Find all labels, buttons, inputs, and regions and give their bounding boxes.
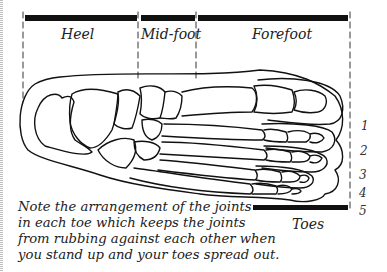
caption-line-2: in each toe which keeps the joints xyxy=(18,215,279,231)
caption-line-4: you stand up and your toes spread out. xyxy=(18,247,279,263)
metatarsal-4 xyxy=(158,160,257,180)
metatarsal-3 xyxy=(160,142,267,160)
toe-1-proximal-phalanx xyxy=(254,85,294,113)
caption-line-1: Note the arrangement of the joints xyxy=(18,199,279,215)
cuneiform-2 xyxy=(142,119,162,140)
metatarsal-1 xyxy=(182,87,257,116)
toe-1-distal-phalanx xyxy=(294,90,326,113)
metatarsal-5 xyxy=(130,168,253,194)
metatarsal-2 xyxy=(162,124,265,140)
cuboid-bone xyxy=(98,138,136,168)
caption-line-3: from rubbing against each other when xyxy=(18,231,279,247)
cuneiform-3 xyxy=(134,141,160,160)
caption: Note the arrangement of the joints in ea… xyxy=(18,199,279,263)
talus-bone xyxy=(70,89,119,148)
toe-2-phalanges xyxy=(264,129,324,143)
cuneiform-1 xyxy=(140,86,165,119)
